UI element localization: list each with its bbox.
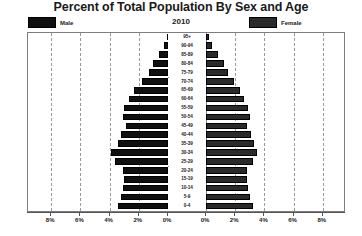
bar-row: 15-19 xyxy=(28,175,344,184)
age-group-label: 5-9 xyxy=(168,193,206,202)
bar-row: 40-44 xyxy=(28,131,344,140)
age-group-label: 15-19 xyxy=(168,175,206,184)
age-group-label: 45-49 xyxy=(168,122,206,131)
bar-male xyxy=(118,140,168,147)
bar-female xyxy=(206,60,224,67)
bar-rows: 95+90-9485-8980-8475-7970-7465-6960-6455… xyxy=(28,33,344,211)
page-title: Percent of Total Population By Sex and A… xyxy=(0,0,362,14)
age-group-label: 50-54 xyxy=(168,113,206,122)
bar-male xyxy=(121,194,168,201)
bar-row: 0-4 xyxy=(28,202,344,211)
plot-area: 95+90-9485-8980-8475-7970-7465-6960-6455… xyxy=(27,32,345,212)
age-group-label: 35-39 xyxy=(168,140,206,149)
bar-female xyxy=(206,167,247,174)
age-group-label: 80-84 xyxy=(168,60,206,69)
bar-female xyxy=(206,149,257,156)
legend-female-label: Female xyxy=(281,20,302,26)
legend-female-swatch xyxy=(249,17,277,28)
bar-female xyxy=(206,194,250,201)
bar-female xyxy=(206,105,248,112)
bar-row: 90-94 xyxy=(28,42,344,51)
age-group-label: 25-29 xyxy=(168,158,206,167)
x-tick-label: 0% xyxy=(201,217,210,223)
bar-row: 45-49 xyxy=(28,122,344,131)
bar-female xyxy=(206,203,253,210)
x-tick-label: 4% xyxy=(259,217,268,223)
bar-male xyxy=(118,203,168,210)
age-group-label: 85-89 xyxy=(168,51,206,60)
x-tick-label: 2% xyxy=(133,217,142,223)
x-axis-line xyxy=(27,212,345,213)
bar-female xyxy=(206,123,247,130)
bar-male xyxy=(123,167,168,174)
bar-male xyxy=(134,87,168,94)
x-tick-label: 8% xyxy=(317,217,326,223)
x-tick-label: 2% xyxy=(230,217,239,223)
chart-year-label: 2010 xyxy=(0,17,362,26)
age-group-label: 20-24 xyxy=(168,167,206,176)
bar-male xyxy=(129,96,168,103)
bar-female xyxy=(206,185,248,192)
age-group-label: 55-59 xyxy=(168,104,206,113)
bar-row: 55-59 xyxy=(28,104,344,113)
bar-male xyxy=(124,176,168,183)
bar-male xyxy=(159,51,168,58)
bar-male xyxy=(111,149,168,156)
bar-female xyxy=(206,114,250,121)
bar-row: 80-84 xyxy=(28,60,344,69)
x-tick-label: 4% xyxy=(104,217,113,223)
age-group-label: 75-79 xyxy=(168,69,206,78)
bar-row: 70-74 xyxy=(28,78,344,87)
bar-row: 30-34 xyxy=(28,149,344,158)
population-pyramid-chart: Percent of Total Population By Sex and A… xyxy=(0,0,362,236)
bar-male xyxy=(124,105,168,112)
bar-row: 95+ xyxy=(28,33,344,42)
bar-male xyxy=(123,114,168,121)
bar-male xyxy=(153,60,168,67)
legend-female: Female xyxy=(249,17,302,28)
bar-female xyxy=(206,34,209,41)
bar-row: 85-89 xyxy=(28,51,344,60)
bar-row: 50-54 xyxy=(28,113,344,122)
age-group-label: 90-94 xyxy=(168,42,206,51)
age-group-label: 70-74 xyxy=(168,78,206,87)
bar-male xyxy=(142,78,168,85)
age-group-label: 95+ xyxy=(168,33,206,42)
bar-row: 5-9 xyxy=(28,193,344,202)
age-group-label: 10-14 xyxy=(168,184,206,193)
age-group-label: 0-4 xyxy=(168,202,206,211)
bar-female xyxy=(206,87,240,94)
bar-row: 60-64 xyxy=(28,95,344,104)
bar-row: 25-29 xyxy=(28,158,344,167)
age-group-label: 65-69 xyxy=(168,86,206,95)
x-tick-label: 0% xyxy=(163,217,172,223)
bar-female xyxy=(206,96,244,103)
bar-row: 65-69 xyxy=(28,86,344,95)
bar-female xyxy=(206,176,247,183)
bar-male xyxy=(115,158,168,165)
bar-female xyxy=(206,42,212,49)
x-tick-label: 6% xyxy=(75,217,84,223)
bar-female xyxy=(206,158,253,165)
bar-female xyxy=(206,131,251,138)
x-axis: 8%6%4%2%0%0%2%4%6%8% xyxy=(27,212,345,234)
age-group-label: 60-64 xyxy=(168,95,206,104)
bar-male xyxy=(121,131,168,138)
bar-male xyxy=(149,69,168,76)
bar-female xyxy=(206,51,218,58)
x-tick-label: 8% xyxy=(46,217,55,223)
bar-female xyxy=(206,69,228,76)
x-tick-label: 6% xyxy=(288,217,297,223)
bar-male xyxy=(126,123,168,130)
bar-male xyxy=(123,185,168,192)
age-group-label: 40-44 xyxy=(168,131,206,140)
bar-female xyxy=(206,140,254,147)
bar-row: 20-24 xyxy=(28,167,344,176)
bar-row: 10-14 xyxy=(28,184,344,193)
bar-female xyxy=(206,78,234,85)
bar-row: 35-39 xyxy=(28,140,344,149)
age-group-label: 30-34 xyxy=(168,149,206,158)
bar-row: 75-79 xyxy=(28,69,344,78)
